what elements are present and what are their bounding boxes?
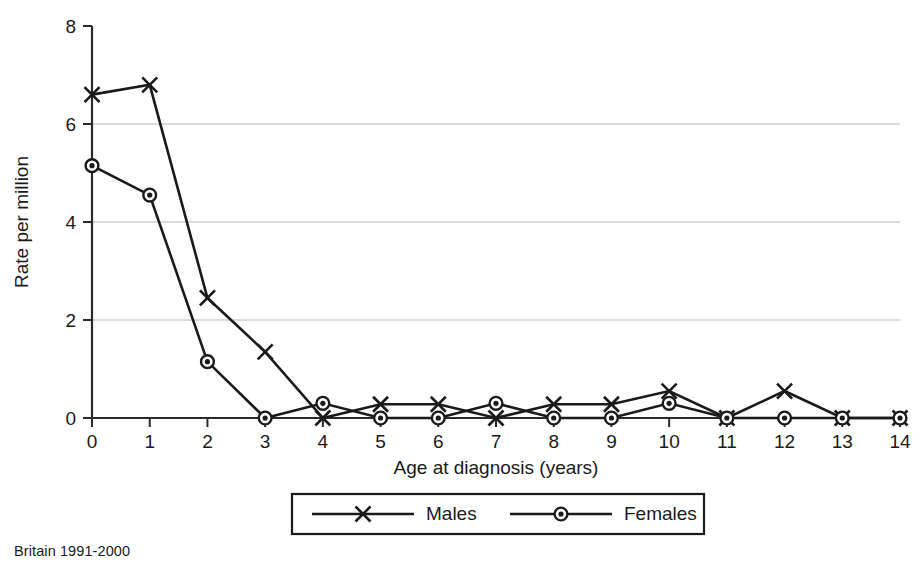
legend-marker-females-dot	[558, 511, 563, 516]
datapoint-females-age-11-dot	[724, 415, 729, 420]
datapoint-males-age-2	[200, 290, 215, 305]
datapoint-females-age-6-dot	[436, 415, 441, 420]
datapoint-females-age-13-dot	[840, 415, 845, 420]
datapoint-females-age-7	[490, 397, 503, 410]
datapoint-females-age-8-dot	[551, 415, 556, 420]
x-tick-label-14: 14	[889, 431, 911, 452]
datapoint-males-age-12	[777, 384, 792, 399]
datapoint-females-age-14	[894, 412, 907, 425]
x-tick-label-2: 2	[202, 431, 213, 452]
x-tick-label-12: 12	[774, 431, 795, 452]
datapoint-females-age-4-dot	[320, 401, 325, 406]
datapoint-females-age-11	[720, 412, 733, 425]
figure-caption: Britain 1991-2000	[14, 543, 130, 559]
datapoint-females-age-3	[259, 412, 272, 425]
y-tick-label-6: 6	[65, 114, 76, 135]
datapoint-females-age-8	[547, 412, 560, 425]
datapoint-females-age-13	[836, 412, 849, 425]
y-tick-label-4: 4	[65, 212, 76, 233]
datapoint-females-age-0-dot	[89, 163, 94, 168]
datapoint-females-age-0	[86, 159, 99, 172]
x-tick-label-9: 9	[606, 431, 617, 452]
x-tick-label-13: 13	[832, 431, 853, 452]
x-tick-label-0: 0	[87, 431, 98, 452]
datapoint-females-age-4	[316, 397, 329, 410]
x-tick-label-10: 10	[659, 431, 680, 452]
datapoint-females-age-1	[143, 189, 156, 202]
x-tick-label-11: 11	[717, 431, 737, 452]
datapoint-females-age-14-dot	[897, 415, 902, 420]
datapoint-females-age-10	[663, 397, 676, 410]
legend-label-males: Males	[426, 503, 477, 524]
y-tick-label-8: 8	[65, 16, 76, 37]
series-males	[85, 77, 908, 425]
datapoint-females-age-3-dot	[263, 415, 268, 420]
datapoint-females-age-12	[778, 412, 791, 425]
x-tick-label-6: 6	[433, 431, 444, 452]
y-tick-label-2: 2	[65, 310, 76, 331]
x-axis-title: Age at diagnosis (years)	[394, 457, 599, 478]
y-axis-ticks: 02468	[65, 16, 92, 429]
y-tick-label-0: 0	[65, 408, 76, 429]
datapoint-females-age-5-dot	[378, 415, 383, 420]
datapoint-males-age-3	[258, 344, 273, 359]
datapoint-females-age-7-dot	[493, 401, 498, 406]
datapoint-females-age-10-dot	[667, 401, 672, 406]
y-axis-title: Rate per million	[11, 156, 32, 288]
x-tick-label-4: 4	[318, 431, 329, 452]
chart-legend: MalesFemales	[292, 494, 704, 534]
datapoint-females-age-9	[605, 412, 618, 425]
data-series-layer	[85, 77, 908, 425]
x-tick-label-3: 3	[260, 431, 271, 452]
datapoint-females-age-12-dot	[782, 415, 787, 420]
datapoint-females-age-2	[201, 355, 214, 368]
line-chart: 02468 01234567891011121314 Age at diagno…	[0, 0, 924, 572]
x-tick-label-1: 1	[144, 431, 155, 452]
datapoint-females-age-5	[374, 412, 387, 425]
x-tick-label-8: 8	[548, 431, 559, 452]
x-tick-label-5: 5	[375, 431, 386, 452]
chart-figure: 02468 01234567891011121314 Age at diagno…	[0, 0, 924, 572]
datapoint-females-age-1-dot	[147, 192, 152, 197]
datapoint-females-age-2-dot	[205, 359, 210, 364]
datapoint-females-age-9-dot	[609, 415, 614, 420]
x-tick-label-7: 7	[491, 431, 502, 452]
datapoint-females-age-6	[432, 412, 445, 425]
series-females	[86, 159, 907, 424]
legend-marker-females	[555, 508, 568, 521]
legend-label-females: Females	[624, 503, 697, 524]
